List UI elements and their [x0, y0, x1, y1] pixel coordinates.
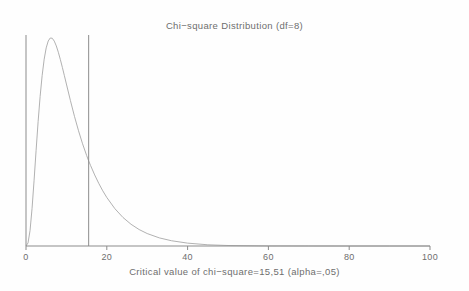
x-axis-tick-label: 20 — [101, 252, 112, 262]
x-axis-tick-label: 80 — [344, 252, 355, 262]
chi-square-distribution-chart: Chi−square Distribution (df=8) 020406080… — [0, 0, 469, 291]
plot-area — [0, 0, 469, 291]
x-axis-tick-label: 40 — [182, 252, 193, 262]
x-axis-caption: Critical value of chi−square=15,51 (alph… — [0, 266, 469, 277]
x-axis-tick-label: 0 — [23, 252, 28, 262]
vertical-lines-group — [26, 35, 89, 246]
distribution-curve — [26, 38, 430, 246]
x-axis-tick-label: 60 — [263, 252, 274, 262]
x-axis-tick-label: 100 — [422, 252, 438, 262]
x-axis-group — [26, 246, 430, 250]
distribution-curve-group — [26, 38, 430, 246]
